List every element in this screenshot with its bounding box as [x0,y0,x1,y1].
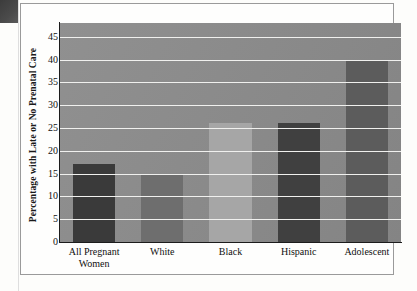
gridline [60,174,401,175]
y-axis-tick-label: 25 [48,123,58,133]
y-axis-title: Percentage with Late or No Prenatal Care [25,32,41,238]
y-axis-tick-label: 30 [48,100,58,110]
x-axis-category-label: All Pregnant Women [60,246,128,269]
bar [73,164,115,242]
gridline [60,151,401,152]
y-axis-tick-labels: 051015202530354045 [41,23,58,242]
y-axis-title-text: Percentage with Late or No Prenatal Care [28,48,38,222]
figure-container: Percentage with Late or No Prenatal Care… [20,3,394,275]
y-axis-tick-label: 40 [48,55,58,65]
x-axis-category-label: Adolescent [333,246,401,258]
y-axis-tick-label: 20 [48,146,58,156]
gridline [60,60,401,61]
x-axis-category-labels: All Pregnant WomenWhiteBlackHispanicAdol… [60,246,401,276]
bar [278,123,320,242]
y-axis-tick-label: 0 [53,237,58,247]
y-axis-tick-label: 5 [53,214,58,224]
scanned-page: Percentage with Late or No Prenatal Care… [0,0,417,291]
x-axis-category-label: White [128,246,196,258]
y-axis-line [59,22,60,243]
y-axis-tick-label: 45 [48,32,58,42]
gridline [60,128,401,129]
x-axis-line [59,242,402,243]
y-axis-tick-label: 10 [48,191,58,201]
gridline [60,196,401,197]
bar [141,174,183,242]
gridline [60,105,401,106]
page-edge-rule [18,0,19,291]
y-axis-tick-label: 15 [48,169,58,179]
gridline [60,37,401,38]
gridline [60,82,401,83]
x-axis-category-label: Black [196,246,264,258]
scan-edge-artifact-icon [0,0,18,23]
x-axis-category-label: Hispanic [265,246,333,258]
gridline [60,219,401,220]
bar [209,123,251,242]
plot-area [60,23,401,242]
y-axis-tick-label: 35 [48,77,58,87]
